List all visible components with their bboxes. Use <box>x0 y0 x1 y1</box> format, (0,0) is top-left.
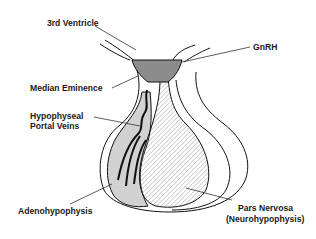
label-gnrh: GnRH <box>253 42 277 52</box>
label-adenohypophysis: Adenohypophysis <box>18 206 93 216</box>
label-third-ventricle: 3rd Ventricle <box>47 18 99 28</box>
label-median-eminence: Median Eminence <box>30 83 103 93</box>
pituitary-diagram: 3rd Ventricle GnRH Median Eminence Hypop… <box>0 0 316 239</box>
label-pars-nervosa-line1: Pars Nervosa <box>238 203 293 213</box>
label-portal-veins-line2: Portal Veins <box>30 121 79 131</box>
label-pars-nervosa-line2: (Neurohypophysis) <box>226 214 304 224</box>
third-ventricle-walls <box>100 40 210 62</box>
label-portal-veins-line1: Hypophyseal <box>30 111 84 121</box>
